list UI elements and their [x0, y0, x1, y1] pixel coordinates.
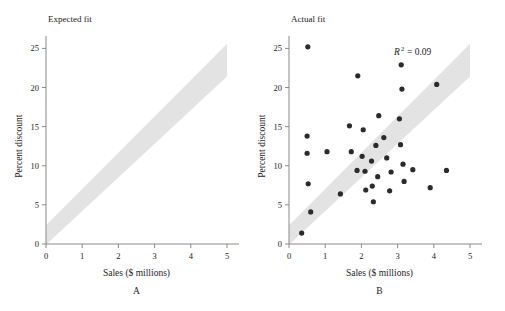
panel-actual-fit: 0123450510152025Sales ($ millions)Percen… [252, 0, 504, 311]
x-axis-title: Sales ($ millions) [103, 268, 170, 279]
y-tick-label: 10 [274, 161, 283, 171]
y-axis-title: Percent discount [14, 114, 24, 177]
scatter-point [371, 199, 376, 204]
scatter-point [370, 184, 375, 189]
scatter-point [305, 133, 310, 138]
scatter-point [355, 73, 360, 78]
y-tick-label: 15 [31, 122, 40, 132]
scatter-point [362, 169, 367, 174]
figure-container: 0123450510152025Sales ($ millions)Percen… [0, 0, 505, 311]
scatter-point [388, 169, 393, 174]
panel-letter: B [376, 286, 382, 296]
scatter-point [369, 158, 374, 163]
r-symbol: R [393, 47, 400, 57]
y-tick-label: 20 [31, 83, 40, 93]
r-superscript: 2 [401, 45, 404, 52]
scatter-point [434, 82, 439, 87]
y-tick-label: 15 [274, 122, 283, 132]
panel-title: Actual fit [291, 14, 326, 24]
x-tick-label: 2 [116, 251, 120, 261]
x-tick-label: 0 [44, 251, 48, 261]
y-tick-label: 25 [31, 43, 40, 53]
scatter-point [338, 191, 343, 196]
x-tick-label: 4 [189, 251, 194, 261]
y-axis-title: Percent discount [257, 114, 267, 177]
x-tick-label: 2 [359, 251, 363, 261]
panel-letter: A [133, 286, 140, 296]
expected-fit-band [46, 44, 227, 245]
band-group [46, 44, 227, 245]
scatter-point [400, 162, 405, 167]
scatter-point [399, 62, 404, 67]
x-axis-title: Sales ($ millions) [346, 268, 413, 279]
scatter-point [397, 116, 402, 121]
panel-title: Expected fit [48, 14, 92, 24]
r-equals-value: = 0.09 [407, 47, 432, 57]
scatter-point [387, 188, 392, 193]
scatter-point [444, 168, 449, 173]
scatter-point [305, 44, 310, 49]
y-tick-label: 20 [274, 83, 283, 93]
expected-fit-chart: 0123450510152025Sales ($ millions)Percen… [0, 0, 252, 311]
actual-fit-chart: 0123450510152025Sales ($ millions)Percen… [252, 0, 505, 311]
scatter-point [306, 181, 311, 186]
x-tick-label: 5 [225, 251, 229, 261]
scatter-point [398, 142, 403, 147]
scatter-point [402, 179, 407, 184]
scatter-point [375, 174, 380, 179]
scatter-point [399, 86, 404, 91]
panel-expected-fit: 0123450510152025Sales ($ millions)Percen… [0, 0, 252, 311]
x-tick-label: 1 [323, 251, 327, 261]
scatter-point [376, 113, 381, 118]
y-tick-label: 10 [31, 161, 40, 171]
scatter-point [363, 187, 368, 192]
scatter-point [360, 154, 365, 159]
y-tick-label: 0 [35, 239, 39, 249]
scatter-point [428, 185, 433, 190]
scatter-point [373, 143, 378, 148]
scatter-point [305, 151, 310, 156]
scatter-point [347, 123, 352, 128]
x-tick-label: 0 [287, 251, 291, 261]
r-squared-annotation: R2= 0.09 [393, 45, 432, 57]
y-tick-label: 5 [35, 200, 39, 210]
x-tick-label: 3 [395, 251, 399, 261]
x-tick-label: 3 [152, 251, 156, 261]
x-tick-label: 1 [80, 251, 84, 261]
scatter-point [410, 167, 415, 172]
y-tick-label: 25 [274, 43, 283, 53]
y-tick-label: 5 [278, 200, 282, 210]
x-tick-label: 4 [432, 251, 437, 261]
scatter-point [349, 149, 354, 154]
scatter-point [324, 149, 329, 154]
scatter-point [354, 168, 359, 173]
scatter-point [361, 127, 366, 132]
actual-fit-band [289, 44, 470, 245]
x-tick-label: 5 [468, 251, 472, 261]
scatter-point [308, 209, 313, 214]
band-group [289, 44, 470, 245]
scatter-point [299, 230, 304, 235]
scatter-point [381, 135, 386, 140]
y-tick-label: 0 [278, 239, 282, 249]
scatter-point [384, 155, 389, 160]
